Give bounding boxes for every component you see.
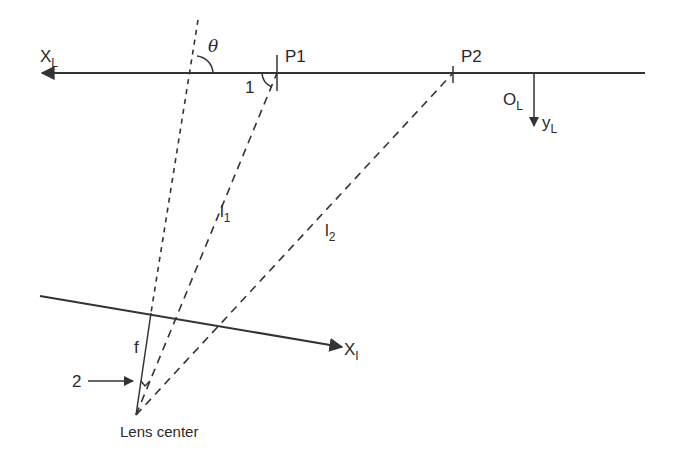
angle1-arc (262, 73, 272, 87)
x-axis-image-label: XI (344, 340, 359, 363)
x-axis-laser-label: XL (40, 47, 58, 70)
focal-length-line (136, 313, 151, 415)
y-axis-laser-label: yL (542, 113, 558, 136)
l1-label: l1 (220, 202, 231, 225)
theta-label: θ (208, 36, 218, 56)
p2-label: P2 (461, 47, 482, 66)
origin-label: OL (503, 90, 523, 113)
angle1-label: 1 (245, 78, 254, 97)
image-x-axis (40, 296, 342, 347)
theta-arc (197, 56, 213, 73)
l2-label: l2 (325, 221, 336, 244)
p1-label: P1 (285, 47, 306, 66)
marker-2-label: 2 (72, 372, 81, 391)
focal-length-label: f (134, 338, 139, 357)
lens-geometry-diagram: XL OL yL P1 P2 θ l1 1 l2 XI f 2 Lens cen… (0, 0, 677, 462)
ray-l1 (136, 73, 277, 415)
ray-l2 (136, 73, 453, 415)
lens-center-label: Lens center (120, 423, 198, 440)
optical-axis-dotted (151, 20, 198, 313)
